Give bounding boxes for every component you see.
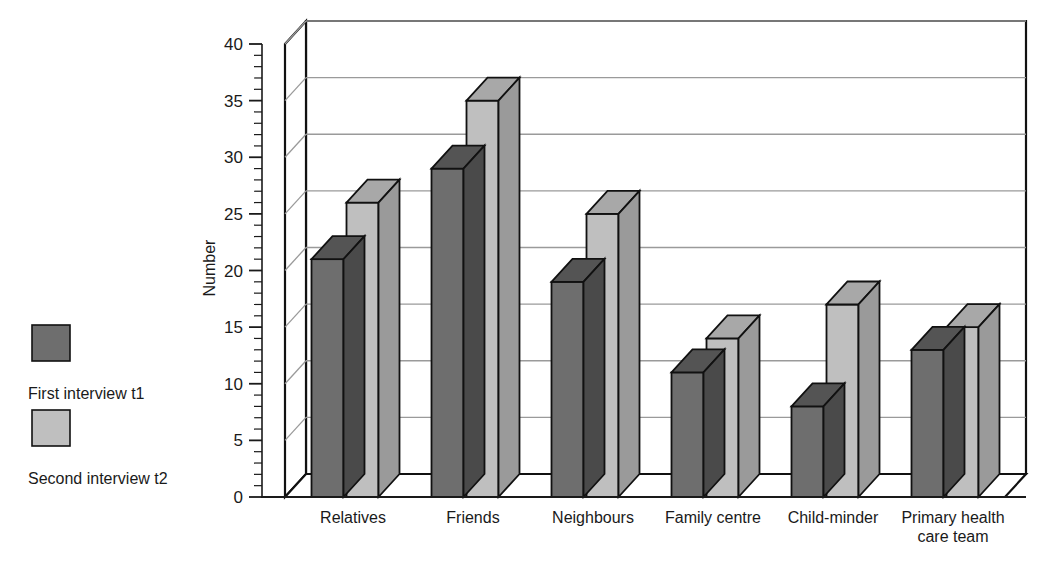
- category-label-line: Relatives: [320, 509, 386, 526]
- y-axis-title: Number: [201, 239, 218, 297]
- bar-front-face: [912, 350, 944, 497]
- bar-side-face: [379, 180, 400, 497]
- chart-canvas: 0510152025303540 RelativesFriendsNeighbo…: [0, 0, 1055, 577]
- bar: [672, 349, 725, 497]
- bar: [792, 383, 845, 497]
- bar-side-face: [979, 304, 1000, 497]
- bar-side-face: [944, 327, 965, 497]
- category-label-line: Primary health: [901, 509, 1004, 526]
- bar-side-face: [584, 259, 605, 497]
- bar: [432, 146, 485, 497]
- y-tick-label: 15: [224, 318, 243, 337]
- legend-swatch-1: [32, 325, 70, 361]
- bar-side-face: [344, 236, 365, 497]
- bar-side-face: [499, 78, 520, 497]
- bar: [552, 259, 605, 497]
- y-tick-label: 0: [234, 488, 243, 507]
- bar-front-face: [312, 259, 344, 497]
- category-label-line: Family centre: [665, 509, 761, 526]
- y-tick-label: 35: [224, 92, 243, 111]
- y-tick-label: 40: [224, 35, 243, 54]
- bar: [312, 236, 365, 497]
- category-label: Relatives: [320, 509, 386, 526]
- y-tick-label: 10: [224, 375, 243, 394]
- category-label: Friends: [446, 509, 499, 526]
- category-label: Family centre: [665, 509, 761, 526]
- y-tick-label: 25: [224, 205, 243, 224]
- category-label-line: Neighbours: [552, 509, 634, 526]
- category-label-line: care team: [917, 528, 988, 545]
- bar: [912, 327, 965, 497]
- bar-front-face: [552, 282, 584, 497]
- bar-front-face: [672, 372, 704, 497]
- y-tick-label: 20: [224, 262, 243, 281]
- category-label: Neighbours: [552, 509, 634, 526]
- legend-swatch-2: [32, 410, 70, 446]
- category-label: Child-minder: [788, 509, 879, 526]
- y-tick-label: 30: [224, 148, 243, 167]
- bar-front-face: [792, 406, 824, 497]
- bar-side-face: [464, 146, 485, 497]
- category-label-line: Friends: [446, 509, 499, 526]
- bar-side-face: [859, 281, 880, 497]
- bar-side-face: [704, 349, 725, 497]
- bar-chart: 0510152025303540 RelativesFriendsNeighbo…: [0, 0, 1055, 577]
- category-label-line: Child-minder: [788, 509, 879, 526]
- bar-side-face: [739, 315, 760, 497]
- y-tick-label: 5: [234, 431, 243, 450]
- y-axis-title-text: Number: [201, 239, 218, 297]
- legend-label-1: First interview t1: [28, 385, 145, 402]
- bar-side-face: [619, 191, 640, 497]
- legend-label-2: Second interview t2: [28, 470, 168, 487]
- bar-front-face: [432, 169, 464, 497]
